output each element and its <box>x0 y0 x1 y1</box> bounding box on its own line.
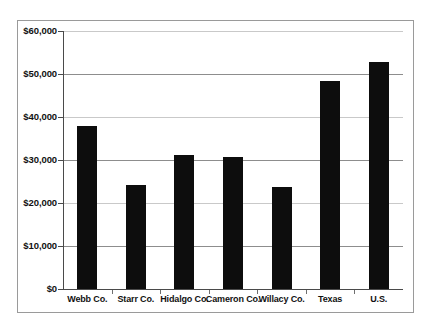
y-axis-tick <box>58 74 64 75</box>
bar-willacy-co <box>272 187 292 289</box>
gridline <box>63 74 403 75</box>
x-axis-tick-label: Texas <box>318 294 342 305</box>
gridline <box>63 117 403 118</box>
y-axis-tick-label: $60,000 <box>3 26 57 36</box>
y-axis-tick-label: $40,000 <box>3 112 57 122</box>
x-axis-tick-label: Willacy Co. <box>258 294 304 305</box>
y-axis-tick <box>58 289 64 290</box>
plot-area <box>63 31 403 289</box>
y-axis-tick <box>58 246 64 247</box>
y-axis-labels: $0$10,000$20,000$30,000$40,000$50,000$60… <box>0 0 57 332</box>
y-axis-tick-label: $50,000 <box>3 69 57 79</box>
bar-u-s <box>369 62 389 289</box>
y-axis-tick <box>58 203 64 204</box>
y-axis-tick <box>58 160 64 161</box>
y-axis-tick <box>58 117 64 118</box>
x-axis-tick-label: U.S. <box>370 294 387 305</box>
bar-webb-co <box>77 126 97 289</box>
x-axis-tick-label: Starr Co. <box>118 294 155 305</box>
x-axis-tick <box>354 290 355 294</box>
bar-hidalgo-co <box>174 155 194 289</box>
y-axis-tick-label: $30,000 <box>3 155 57 165</box>
y-axis-tick-label: $10,000 <box>3 241 57 251</box>
x-axis-tick-label: Cameron Co. <box>206 294 260 305</box>
y-axis-tick-label: $20,000 <box>3 198 57 208</box>
bar-starr-co <box>126 185 146 289</box>
bar-chart-figure: $0$10,000$20,000$30,000$40,000$50,000$60… <box>0 0 430 332</box>
x-axis-tick-label: Hidalgo Co. <box>160 294 208 305</box>
x-axis-tick-label: Webb Co. <box>67 294 107 305</box>
gridline <box>63 289 403 290</box>
bar-texas <box>320 81 340 289</box>
x-axis-tick <box>112 290 113 294</box>
y-axis-tick-label: $0 <box>3 284 57 294</box>
x-axis-tick <box>306 290 307 294</box>
gridline <box>63 31 403 32</box>
y-axis-tick <box>58 31 64 32</box>
bar-cameron-co <box>223 157 243 289</box>
